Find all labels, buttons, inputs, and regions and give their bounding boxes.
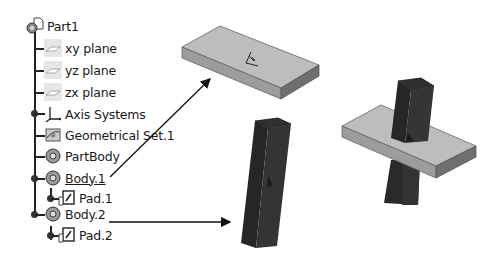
prism-shape <box>241 118 291 248</box>
plate-shape <box>182 26 319 99</box>
assembly-shape <box>342 78 476 205</box>
3d-viewport <box>0 0 501 263</box>
arrow-body1-to-plate <box>110 79 210 177</box>
